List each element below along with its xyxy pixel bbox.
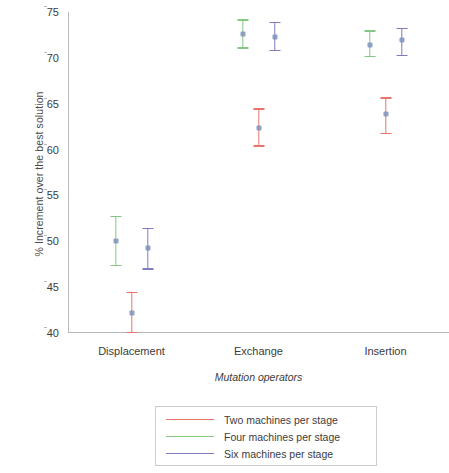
error-bar-mean-marker (240, 32, 245, 37)
error-bar-mean-marker (256, 125, 261, 130)
error-bar-cap-upper (396, 28, 407, 29)
x-tick-label: Displacement (98, 345, 165, 357)
y-tick-label: 50 (47, 235, 68, 247)
x-axis-title: Mutation operators (68, 371, 449, 383)
error-bar-cap-lower (253, 145, 264, 146)
error-bar (235, 19, 251, 48)
y-tick-label: 70 (47, 52, 68, 64)
y-axis-title: % Increment over the best solution (33, 49, 45, 299)
error-bar-cap-lower (380, 133, 391, 134)
y-tick-mark (44, 235, 47, 236)
error-bar-cap-upper (380, 97, 391, 98)
y-tick-mark (44, 6, 47, 7)
error-bar-cap-upper (237, 19, 248, 20)
error-bar-mean-marker (399, 38, 404, 43)
error-bar (394, 28, 410, 56)
x-tick-label: Insertion (364, 345, 406, 357)
legend-item[interactable]: Four machines per stage (156, 428, 376, 445)
y-tick-label: 75 (47, 6, 68, 18)
y-tick-label: 40 (47, 327, 68, 339)
error-bar-cap-lower (364, 56, 375, 57)
error-bar (362, 30, 378, 57)
y-tick-mark (44, 281, 47, 282)
y-tick-label: 65 (47, 98, 68, 110)
legend-item-label: Six machines per stage (224, 448, 333, 460)
error-bar-cap-upper (126, 292, 137, 293)
chart-legend: Two machines per stageFour machines per … (155, 406, 377, 466)
y-tick-mark (44, 98, 47, 99)
error-bar (140, 228, 156, 270)
legend-color-swatch (166, 419, 214, 421)
y-axis-line (68, 12, 69, 333)
error-bar-cap-lower (396, 55, 407, 56)
error-bar-cap-upper (142, 228, 153, 229)
error-bar-cap-upper (253, 108, 264, 109)
legend-item-label: Four machines per stage (224, 431, 340, 443)
plot-area: 7570656055504540 DisplacementExchangeIns… (68, 12, 449, 333)
y-tick-label: 45 (47, 281, 68, 293)
error-bar-cap-lower (126, 332, 137, 333)
error-bar-cap-upper (269, 22, 280, 23)
error-bar-mean-marker (129, 310, 134, 315)
error-bar (124, 292, 140, 333)
error-bar (251, 108, 267, 147)
legend-item[interactable]: Six machines per stage (156, 445, 376, 462)
legend-item[interactable]: Two machines per stage (156, 411, 376, 428)
legend-color-swatch (166, 436, 214, 438)
error-bar-mean-marker (367, 43, 372, 48)
y-tick-label: 55 (47, 189, 68, 201)
error-bar-cap-lower (269, 50, 280, 51)
chart-figure: % Increment over the best solution 75706… (0, 0, 449, 473)
y-tick-mark (44, 52, 47, 53)
error-bar-cap-lower (237, 47, 248, 48)
legend-item-label: Two machines per stage (224, 414, 338, 426)
legend-color-swatch (166, 453, 214, 455)
y-tick-mark (44, 189, 47, 190)
error-bar-cap-upper (110, 216, 121, 217)
error-bar-mean-marker (145, 245, 150, 250)
error-bar (108, 216, 124, 266)
error-bar-cap-lower (110, 265, 121, 266)
error-bar-mean-marker (272, 34, 277, 39)
error-bar-cap-upper (364, 30, 375, 31)
error-bar-cap-lower (142, 268, 153, 269)
x-tick-label: Exchange (234, 345, 283, 357)
error-bar-mean-marker (383, 111, 388, 116)
error-bar-mean-marker (113, 239, 118, 244)
y-tick-mark (44, 327, 47, 328)
error-bar (378, 97, 394, 134)
error-bar (267, 22, 283, 51)
y-tick-mark (44, 144, 47, 145)
y-tick-label: 60 (47, 144, 68, 156)
